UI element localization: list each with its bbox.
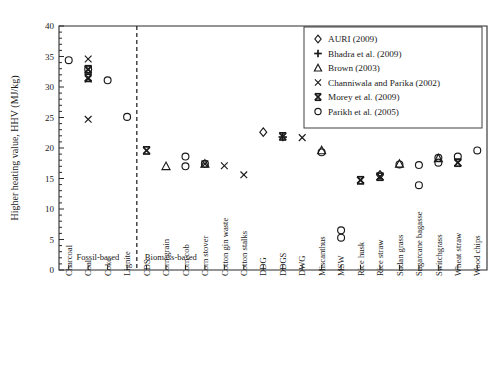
x-tick-label: Sugarcane bagasse [414,211,424,276]
x-tick-label: Corn grain [161,238,171,276]
data-point-circle [474,147,481,154]
data-point-circle [65,57,72,64]
legend-entry-label: Parikh et al. (2005) [328,107,399,117]
legend: AURI (2009)Bhadra et al. (2009)Brown (20… [304,27,482,128]
data-point-circle [182,153,189,160]
x-tick-label: MSW [336,255,346,276]
series-brown-2003 [162,146,442,169]
x-tick-label: DWG [297,255,307,276]
y-tick-label: 25 [45,113,55,123]
x-tick-label: Rice straw [375,239,385,276]
y-tick-label: 10 [45,204,55,214]
x-tick-label: Coke [103,258,113,276]
y-tick-label: 40 [45,21,55,31]
legend-entry-label: Brown (2003) [328,63,380,73]
x-tick-label: Miscanthus [317,236,327,276]
x-tick-label: DDG [258,257,268,276]
data-point-x [85,116,92,123]
data-point-x-bar [85,74,92,81]
data-point-circle [415,162,422,169]
chart-figure: Higher heating value, HHV (MJ/kg) 051015… [0,0,498,381]
y-axis-title: Higher heating value, HHV (MJ/kg) [9,75,21,220]
legend-entry-label: Bhadra et al. (2009) [328,49,401,59]
x-tick-label: Switchgrass [434,234,444,276]
x-tick-label: CDS [142,259,152,276]
data-point-x [221,162,228,169]
x-tick-label: Corn cob [181,244,191,276]
y-axis-ticks: 0510152025303540 [45,21,64,275]
x-tick-label: Coal [83,259,93,276]
y-tick-label: 35 [45,52,55,62]
x-tick-label: Cotton stalks [239,230,249,276]
x-tick-label: Lignite [122,251,132,276]
x-tick-label: Wheat straw [453,232,463,276]
data-point-circle [182,163,189,170]
x-tick-label: Rice husk [356,241,366,276]
data-point-circle [124,113,131,120]
y-tick-label: 30 [45,82,55,92]
data-point-triangle [162,162,170,169]
y-tick-label: 0 [50,265,55,275]
data-point-circle [318,149,325,156]
data-point-circle [338,227,345,234]
data-point-circle [104,77,111,84]
y-axis-label: Higher heating value, HHV (MJ/kg) [9,75,21,220]
legend-entry-label: AURI (2009) [328,34,377,44]
x-tick-label: Cotton gin waste [220,218,230,276]
y-tick-label: 20 [45,143,55,153]
x-tick-label: Wood chips [472,235,482,276]
x-tick-label: DDGS [278,252,288,276]
x-tick-label: Corn stover [200,236,210,276]
legend-entry-label: Morey et al. (2009) [328,92,399,102]
hhv-scatter-chart: Higher heating value, HHV (MJ/kg) 051015… [0,0,498,381]
data-point-circle [415,182,422,189]
x-tick-label: Sudan grass [395,234,405,276]
data-point-circle [435,159,442,166]
x-axis-category-labels: CharcoalCoalCokeLigniteCDSCorn grainCorn… [64,211,483,276]
y-tick-label: 5 [50,235,55,245]
data-point-x-bar [357,177,364,184]
data-point-circle [338,234,345,241]
x-tick-label: Charcoal [64,244,74,276]
data-point-x [240,171,247,178]
y-tick-label: 15 [45,174,55,184]
data-point-x [299,134,306,141]
legend-entry-label: Channiwala and Parika (2002) [328,78,440,88]
data-point-diamond [260,128,267,136]
data-point-x [85,56,92,63]
data-point-x-bar [143,147,150,154]
